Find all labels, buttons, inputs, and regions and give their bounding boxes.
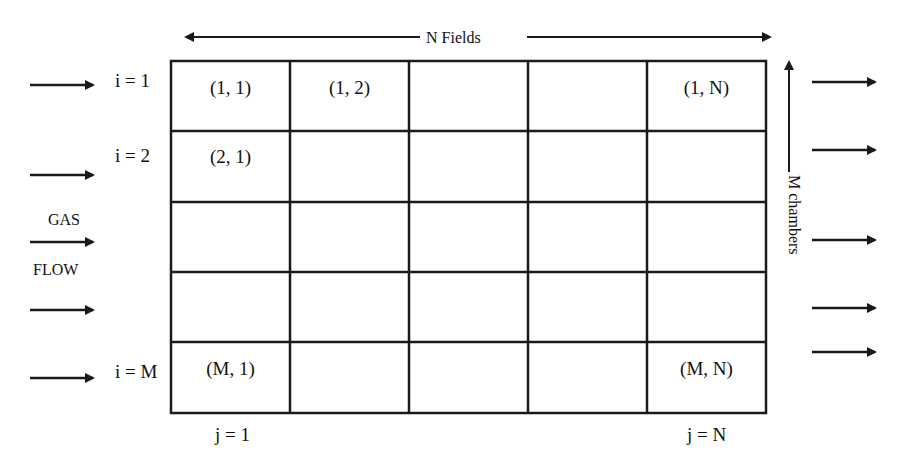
row-label-1: i = 1 [115, 71, 150, 90]
inflow-arrows [30, 85, 93, 378]
cell-m-n: (M, N) [647, 358, 766, 380]
m-chambers-label: M chambers [786, 175, 802, 255]
n-fields-label: N Fields [424, 30, 483, 46]
col-label-1: j = 1 [215, 425, 250, 444]
cell-1-n: (1, N) [647, 77, 766, 99]
cell-2-1: (2, 1) [171, 146, 290, 168]
outflow-arrows [812, 82, 875, 352]
flow-label: FLOW [33, 262, 78, 278]
col-label-n: j = N [687, 425, 726, 444]
cell-m-1: (M, 1) [171, 358, 290, 380]
row-label-2: i = 2 [115, 146, 150, 165]
cell-1-1: (1, 1) [171, 77, 290, 99]
gas-label: GAS [48, 212, 80, 228]
cell-1-2: (1, 2) [290, 77, 409, 99]
row-label-m: i = M [115, 362, 157, 381]
